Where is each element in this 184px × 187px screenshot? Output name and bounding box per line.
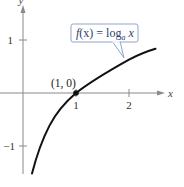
fn-x: x bbox=[127, 26, 134, 40]
y-axis-arrow-icon bbox=[21, 5, 26, 13]
log-curve bbox=[32, 49, 156, 174]
point-label: (1, 0) bbox=[51, 77, 76, 90]
fn-base: a bbox=[121, 33, 125, 42]
y-axis-label: y bbox=[18, 0, 24, 6]
fn-body: (x) = log bbox=[79, 26, 121, 40]
log-function-graph: y x 1 2 1 −1 (1, 0) f(x) = logax bbox=[0, 0, 184, 187]
x-tick-label-1: 1 bbox=[73, 99, 79, 111]
y-tick-label-neg1: −1 bbox=[3, 140, 15, 152]
x-axis-label: x bbox=[167, 87, 173, 99]
x-tick-label-2: 2 bbox=[126, 99, 132, 111]
point-marker-1-0 bbox=[73, 90, 79, 96]
y-tick-label-1: 1 bbox=[8, 34, 14, 46]
callout-pointer bbox=[112, 41, 124, 58]
function-callout: f(x) = logax bbox=[71, 24, 138, 58]
x-axis-arrow-icon bbox=[157, 91, 165, 96]
